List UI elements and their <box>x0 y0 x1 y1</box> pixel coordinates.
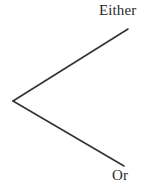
branch-lines-svg <box>0 0 153 193</box>
lower-branch-line <box>13 101 124 166</box>
upper-branch-line <box>13 29 128 101</box>
or-branch-label: Or <box>112 168 128 183</box>
either-or-branch-diagram: Either Or <box>0 0 153 193</box>
either-branch-label: Either <box>99 3 136 18</box>
